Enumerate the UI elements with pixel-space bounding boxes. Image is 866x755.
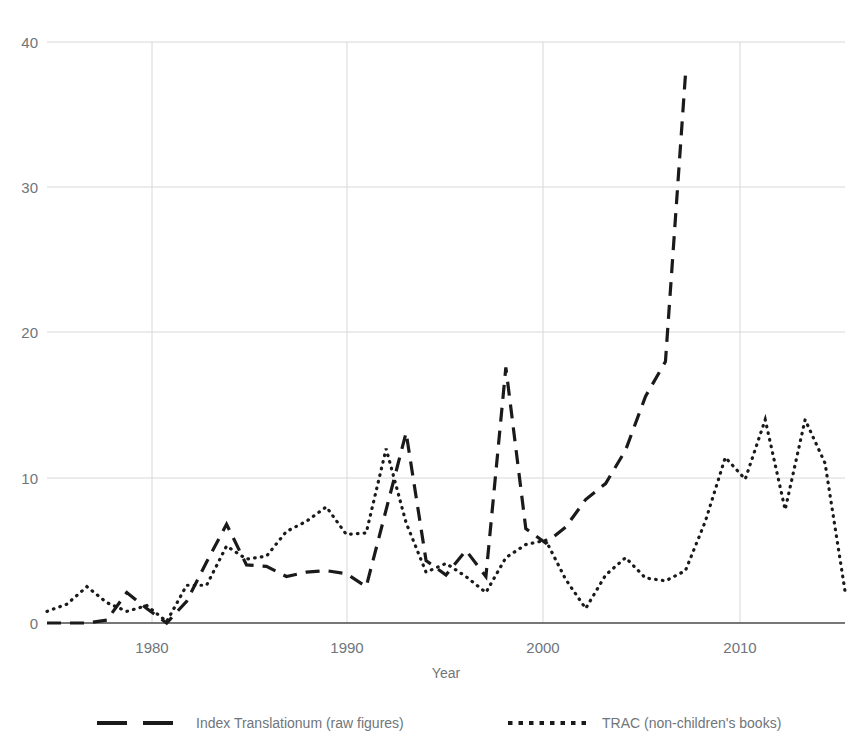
y-gridlines [47,42,845,478]
y-tick-label-0: 0 [30,615,38,632]
y-tick-label-20: 20 [21,324,38,341]
legend-label-trac: TRAC (non-children's books) [602,715,781,731]
legend: Index Translationum (raw figures) TRAC (… [97,715,781,731]
x-tick-label-1990: 1990 [330,639,363,656]
x-tick-label-2000: 2000 [526,639,559,656]
y-tick-label-40: 40 [21,34,38,51]
x-axis-title: Year [432,665,461,681]
y-tick-labels: 40 30 20 10 0 [21,34,38,632]
series-group [47,75,845,623]
x-tick-labels: 1980 1990 2000 2010 [135,639,756,656]
line-chart: 40 30 20 10 0 1980 1990 2000 2010 Year I… [0,0,866,755]
x-tick-label-2010: 2010 [723,639,756,656]
x-tick-label-1980: 1980 [135,639,168,656]
y-tick-label-10: 10 [21,470,38,487]
series-line-trac [47,420,845,622]
y-tick-label-30: 30 [21,179,38,196]
legend-label-index-translationum: Index Translationum (raw figures) [196,715,404,731]
series-line-index-translationum [47,75,685,623]
